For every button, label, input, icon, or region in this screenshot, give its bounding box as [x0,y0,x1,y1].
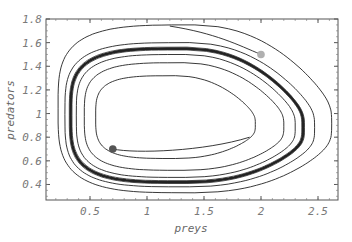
y-tick-label: 1.8 [22,13,42,26]
y-tick-label: 0.8 [22,131,42,144]
inner-start-point [109,145,117,153]
y-tick-label: 1.2 [22,84,42,97]
outer-trajectory-loop-2 [65,43,315,187]
x-tick-label: 2.5 [308,205,328,218]
inner-trajectory-loop-1 [84,63,283,171]
y-tick-label: 0.4 [22,178,42,191]
limit-cycle [71,49,304,183]
start-points [109,51,265,153]
y-axis-label: predators [4,80,17,141]
x-tick-label: 0.5 [80,205,100,218]
inner-trajectory-start [96,76,256,159]
x-tick-label: 1 [144,205,151,218]
x-tick-label: 1.5 [194,205,214,218]
y-tick-label: 1.6 [22,37,42,50]
outer-start-point [257,51,265,59]
y-tick-label: 1 [35,108,42,121]
trajectory-curves [58,25,332,193]
x-axis-label: preys [173,222,207,235]
y-tick-label: 0.6 [22,155,42,168]
phase-plot: 0.511.522.5 0.40.60.811.21.41.61.8 preys… [0,0,352,242]
y-tick-label: 1.4 [22,60,42,73]
plot-frame [46,19,338,200]
x-tick-label: 2 [258,205,265,218]
